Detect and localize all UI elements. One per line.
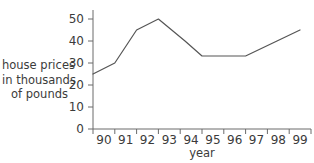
y-tick-label-40: 40 xyxy=(62,34,84,48)
line-chart: house prices in thousands of pounds 0 10… xyxy=(0,0,314,163)
x-tick-label-90: 90 xyxy=(93,133,115,147)
x-axis-title: year xyxy=(170,146,234,160)
x-tick-label-96: 96 xyxy=(224,133,246,147)
x-tick-label-92: 92 xyxy=(137,133,159,147)
y-tick-label-30: 30 xyxy=(62,56,84,70)
x-tick-label-95: 95 xyxy=(202,133,224,147)
y-axis-title: house prices in thousands of pounds xyxy=(2,58,68,102)
house-prices-line xyxy=(93,19,300,74)
x-tick-label-97: 97 xyxy=(246,133,268,147)
x-tick-label-91: 91 xyxy=(115,133,137,147)
y-tick-label-10: 10 xyxy=(62,100,84,114)
x-tick-label-94: 94 xyxy=(180,133,202,147)
y-axis-title-line-1: house prices xyxy=(2,58,68,73)
y-axis-title-line-3: of pounds xyxy=(2,87,68,102)
x-tick-label-93: 93 xyxy=(158,133,180,147)
y-axis-ticks xyxy=(88,19,93,129)
x-tick-label-98: 98 xyxy=(267,133,289,147)
x-tick-label-99: 99 xyxy=(289,133,311,147)
y-tick-label-50: 50 xyxy=(62,12,84,26)
y-tick-label-0: 0 xyxy=(62,122,84,136)
y-tick-label-20: 20 xyxy=(62,78,84,92)
y-axis-title-line-2: in thousands xyxy=(2,73,68,88)
